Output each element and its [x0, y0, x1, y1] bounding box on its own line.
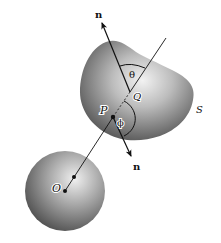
label-s: S [196, 104, 203, 115]
label-n-bottom: n [133, 161, 141, 172]
label-phi: ϕ [117, 117, 124, 128]
label-n-top: n [95, 9, 103, 20]
label-theta: θ [129, 69, 135, 80]
point-p [111, 115, 115, 119]
label-q: Q [133, 91, 141, 102]
label-o: O [52, 182, 61, 195]
label-p: P [99, 104, 108, 117]
point-o [63, 189, 67, 193]
point-mid [72, 175, 76, 179]
diagram-canvas: n θ Q P ϕ n O S [0, 0, 221, 243]
